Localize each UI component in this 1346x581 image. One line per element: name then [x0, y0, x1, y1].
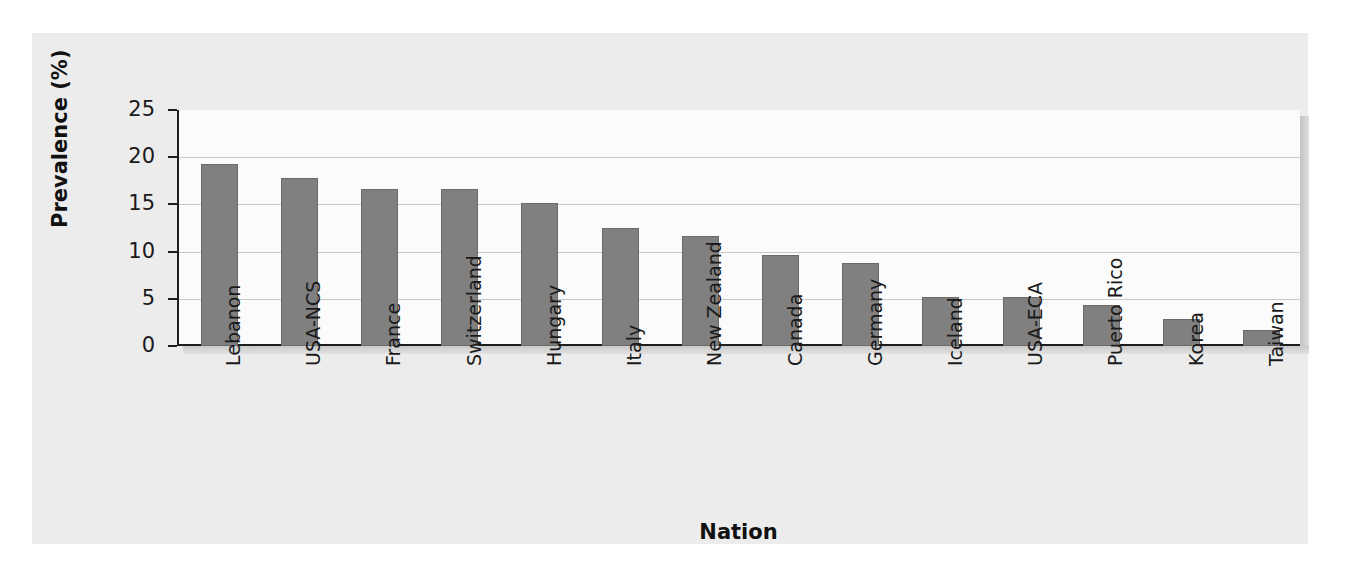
plot-area	[177, 110, 1300, 346]
y-tick-label: 0	[109, 335, 155, 356]
y-axis-title: Prevalence (%)	[50, 50, 71, 228]
gridline	[179, 299, 1300, 300]
y-tick-mark	[168, 251, 177, 253]
x-tick-label: Puerto Rico	[1106, 258, 1125, 366]
y-tick-label: 25	[109, 99, 155, 120]
y-tick-label: 10	[109, 241, 155, 262]
x-tick-label: Germany	[866, 279, 885, 366]
x-axis-title: Nation	[177, 520, 1300, 544]
x-tick-label: USA-NCS	[304, 281, 323, 366]
x-tick-label: Korea	[1187, 312, 1206, 366]
y-tick-mark	[168, 203, 177, 205]
y-tick-label: 20	[109, 146, 155, 167]
x-tick-label: USA-ECA	[1026, 282, 1045, 366]
x-tick-label: Iceland	[946, 297, 965, 366]
y-tick-mark	[168, 109, 177, 111]
gridline	[179, 157, 1300, 158]
y-tick-label: 15	[109, 193, 155, 214]
y-tick-mark	[168, 156, 177, 158]
plot-shadow-bottom	[183, 346, 1309, 354]
x-tick-label: France	[384, 303, 403, 366]
gridline	[179, 252, 1300, 253]
gridline	[179, 204, 1300, 205]
x-tick-label: New Zealand	[705, 241, 724, 366]
figure-panel: Prevalence (%) 0510152025 LebanonUSA-NCS…	[32, 33, 1308, 544]
chart-figure: Prevalence (%) 0510152025 LebanonUSA-NCS…	[0, 0, 1346, 581]
y-tick-mark	[168, 298, 177, 300]
y-tick-label: 5	[109, 288, 155, 309]
y-tick-mark	[168, 345, 177, 347]
x-tick-label: Taiwan	[1267, 301, 1286, 366]
x-tick-label: Canada	[786, 294, 805, 366]
x-tick-label: Italy	[625, 325, 644, 366]
x-tick-label: Hungary	[545, 285, 564, 366]
plot-shadow-right	[1300, 116, 1309, 352]
x-tick-label: Lebanon	[224, 285, 243, 366]
x-tick-label: Switzerland	[465, 255, 484, 366]
